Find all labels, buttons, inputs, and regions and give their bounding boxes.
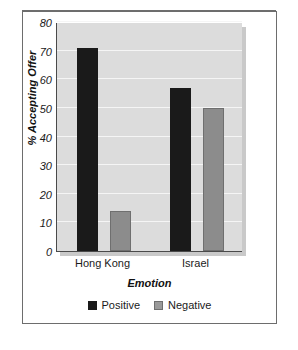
y-axis-title: % Accepting Offer: [26, 38, 38, 158]
bar-negative-israel: [203, 108, 224, 251]
legend-label: Positive: [102, 299, 141, 311]
plot-area: [56, 23, 242, 252]
x-axis-tick-label: Hong Kong: [75, 257, 130, 269]
legend-swatch-positive-icon: [88, 301, 97, 310]
y-axis-tick-label: 80: [22, 17, 52, 29]
legend-label: Negative: [168, 299, 211, 311]
y-axis-tick-label: 0: [22, 246, 52, 258]
legend-item-positive: Positive: [88, 299, 141, 311]
y-axis-tick-label: 20: [22, 189, 52, 201]
bar-negative-hong-kong: [110, 211, 131, 251]
x-axis-tick-labels: Hong KongIsrael: [56, 257, 242, 273]
chart-figure: 80706050403020100 % Accepting Offer Hong…: [0, 0, 298, 350]
x-axis-tick-label: Israel: [182, 257, 209, 269]
y-axis-tick-label: 10: [22, 217, 52, 229]
y-axis-tick-label: 30: [22, 160, 52, 172]
plot-wrapper: [56, 23, 242, 252]
bar-positive-israel: [170, 88, 191, 251]
chart-legend: PositiveNegative: [22, 299, 277, 311]
bar-positive-hong-kong: [77, 48, 98, 251]
x-axis-title: Emotion: [22, 277, 277, 289]
gridline: [57, 21, 242, 22]
legend-swatch-negative-icon: [154, 301, 163, 310]
figure-top-rule: [22, 0, 276, 11]
legend-item-negative: Negative: [154, 299, 211, 311]
